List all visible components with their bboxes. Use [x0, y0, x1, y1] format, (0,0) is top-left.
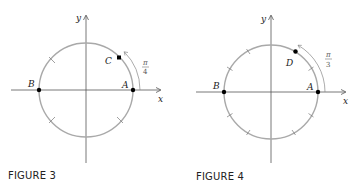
point-d-label: D: [285, 58, 293, 68]
point-b-label: B: [212, 81, 220, 91]
point-c-label: C: [105, 56, 112, 66]
point-d: [293, 49, 297, 53]
arc-label-denominator: 4: [143, 68, 148, 76]
arc-label-numerator: π: [325, 51, 331, 59]
point-b: [222, 90, 226, 94]
point-b-label: B: [27, 79, 35, 89]
point-a: [131, 88, 135, 92]
x-axis-label: x: [343, 96, 348, 106]
figure-4: x y π 3 A B D: [196, 14, 348, 163]
point-c: [117, 56, 121, 60]
y-axis-label: y: [75, 13, 82, 23]
point-a-label: A: [306, 82, 314, 92]
point-b: [37, 88, 41, 92]
arc-label-numerator: π: [142, 59, 148, 67]
y-axis-label: y: [260, 14, 267, 24]
figure-3-caption: FIGURE 3: [8, 170, 56, 181]
point-a-label: A: [121, 80, 129, 90]
figures-canvas: x y π 4 A B C x y: [0, 0, 363, 193]
arc-label-denominator: 3: [326, 61, 330, 69]
x-axis-label: x: [158, 94, 163, 104]
figure-4-caption: FIGURE 4: [196, 171, 244, 182]
figure-3: x y π 4 A B C: [11, 13, 163, 163]
point-a: [316, 90, 320, 94]
